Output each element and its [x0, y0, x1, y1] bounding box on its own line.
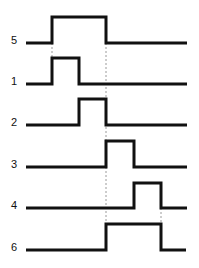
channel-label-3: 3: [11, 158, 17, 170]
channel-labels-group: 512346: [11, 34, 17, 253]
waveform-trace-5: [26, 17, 187, 43]
channel-label-4: 4: [11, 199, 17, 211]
guide-lines-group: [52, 43, 161, 224]
channel-label-1: 1: [11, 75, 17, 87]
channel-label-6: 6: [11, 241, 17, 253]
waveform-trace-3: [26, 141, 187, 167]
waveform-trace-2: [26, 99, 187, 125]
channel-label-5: 5: [11, 34, 17, 46]
waveform-trace-6: [26, 224, 186, 250]
channel-label-2: 2: [11, 116, 17, 128]
waveform-plot-area: 512346: [0, 0, 199, 268]
timing-diagram-canvas: 512346: [0, 0, 199, 268]
